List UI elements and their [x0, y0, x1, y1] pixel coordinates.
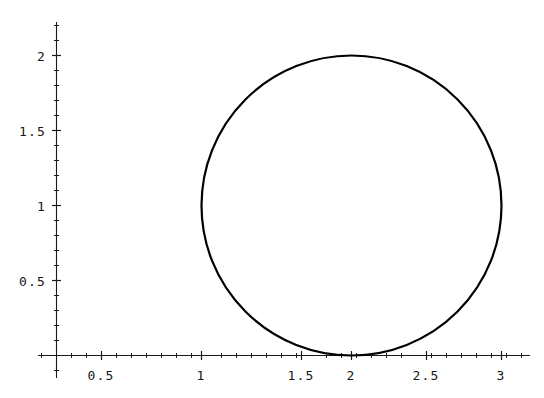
axes-group — [38, 22, 530, 378]
x-tick-label-4: 2.5 — [412, 368, 439, 383]
x-tick-label-2: 1.5 — [287, 368, 314, 383]
x-tick-label-0: 0.5 — [87, 368, 114, 383]
y-tick-label-0: 0.5 — [0, 274, 46, 289]
y-tick-label-2: 1.5 — [0, 124, 46, 139]
plot-canvas — [0, 0, 544, 398]
y-tick-label-3: 2 — [0, 49, 46, 64]
y-tick-label-1: 1 — [0, 199, 46, 214]
x-tick-label-5: 3 — [496, 368, 505, 383]
plot-figure: 0.5 1 1.5 2 2.5 3 0.5 1 1.5 2 — [0, 0, 544, 398]
x-tick-label-1: 1 — [196, 368, 205, 383]
data-circle — [202, 56, 502, 356]
x-tick-label-3: 2 — [346, 368, 355, 383]
